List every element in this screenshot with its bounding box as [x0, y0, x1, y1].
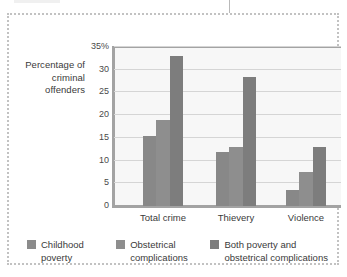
y-axis-title: Percentage of criminal offenders [23, 59, 85, 97]
y-axis-tick-label: 10 [99, 155, 109, 165]
bar [143, 136, 157, 206]
y-axis-tick-label: 5 [104, 177, 109, 187]
legend-label: Obstetrical complications [130, 239, 188, 264]
legend-label: Both poverty and obstetrical complicatio… [224, 239, 328, 264]
y-axis-tick-label: 25 [99, 86, 109, 96]
y-axis-tick-label: 30 [99, 64, 109, 74]
top-smudge-artifact [14, 0, 60, 3]
category-label: Thievery [218, 212, 254, 223]
figure-frame: Percentage of criminal offenders 0510152… [7, 13, 339, 265]
legend-swatch-icon [210, 240, 219, 249]
bar [299, 172, 313, 206]
bar [216, 152, 230, 207]
category-label: Total crime [140, 212, 186, 223]
bar-group [143, 47, 184, 206]
chart-plot: 05101520253035% Total crimeThieveryViole… [114, 46, 341, 206]
y-axis-tick-label: 20 [99, 109, 109, 119]
legend-item: Both poverty and obstetrical complicatio… [210, 239, 339, 264]
chart-legend: Childhood povertyObstetrical complicatio… [27, 239, 339, 264]
legend-label: Childhood poverty [41, 239, 84, 264]
legend-swatch-icon [116, 240, 125, 249]
bar [229, 147, 243, 206]
y-axis-tick-label: 35% [91, 41, 109, 51]
category-label: Violence [288, 212, 324, 223]
legend-swatch-icon [27, 240, 36, 249]
bar [286, 190, 300, 206]
bar-group [216, 47, 257, 206]
y-axis-tick-label: 0 [104, 200, 109, 210]
legend-item: Childhood poverty [27, 239, 116, 264]
legend-item: Obstetrical complications [116, 239, 210, 264]
top-vertical-rule-artifact [229, 0, 230, 13]
bar-group [286, 47, 327, 206]
bar [156, 120, 170, 206]
bar [170, 56, 184, 206]
bar [313, 147, 327, 206]
bar [243, 77, 257, 206]
y-axis-tick-label: 15 [99, 132, 109, 142]
